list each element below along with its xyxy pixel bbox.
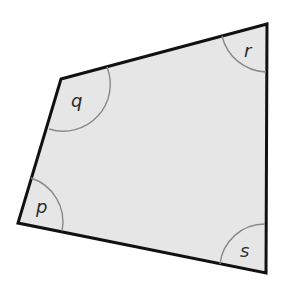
quadrilateral-shape: [18, 24, 267, 273]
angle-label-s: s: [240, 240, 249, 261]
angle-label-q: q: [71, 90, 82, 111]
angle-label-p: p: [35, 196, 47, 217]
quadrilateral-diagram: q r p s: [0, 0, 285, 296]
